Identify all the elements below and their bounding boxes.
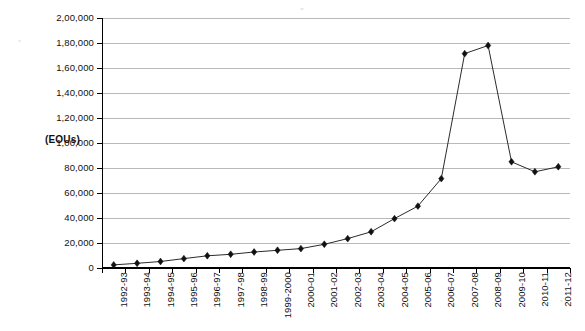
x-tick-label: 2001-02 xyxy=(328,272,339,308)
x-tick-label: 1994-95 xyxy=(165,272,176,308)
y-tick-label: 0 xyxy=(30,262,94,273)
x-tick-label: 1997-98 xyxy=(235,272,246,308)
y-tick-label: 1,40,000 xyxy=(30,87,94,98)
x-tick-mark xyxy=(102,268,103,273)
x-tick-label: 2004-05 xyxy=(399,272,410,308)
y-tick-label: 1,20,000 xyxy=(30,112,94,123)
y-tick-label: 80,000 xyxy=(30,162,94,173)
x-tick-label: 1998-99 xyxy=(258,272,269,308)
y-tick-label: 40,000 xyxy=(30,212,94,223)
y-tick-label: 20,000 xyxy=(30,237,94,248)
x-tick-label: 2007-08 xyxy=(469,272,480,308)
y-tick-label: 1,80,000 xyxy=(30,37,94,48)
x-tick-label: 1995-96 xyxy=(188,272,199,308)
x-tick-label: 1996-97 xyxy=(211,272,222,308)
y-tick-label: 2,00,000 xyxy=(30,12,94,23)
x-tick-label: 2003-04 xyxy=(375,272,386,308)
x-tick-label: 2011-12 xyxy=(562,272,573,307)
x-tick-label: 1992-93 xyxy=(118,272,129,308)
x-tick-label: 1993-94 xyxy=(141,272,152,308)
y-tick-label: 1,00,000 xyxy=(30,137,94,148)
scan-speck xyxy=(300,8,304,10)
chart-figure: (EOUs) 020,00040,00060,00080,0001,00,000… xyxy=(0,0,585,331)
x-tick-label: 2010-11 xyxy=(539,272,550,307)
x-tick-label: 2005-06 xyxy=(422,272,433,308)
scan-speck xyxy=(560,300,563,302)
y-tick-label: 60,000 xyxy=(30,187,94,198)
x-tick-label: 2008-09 xyxy=(492,272,503,308)
scan-speck xyxy=(18,40,21,42)
x-tick-label: 2009-10 xyxy=(516,272,527,308)
x-tick-label: 2002-03 xyxy=(352,272,363,308)
x-tick-label: 2000-01 xyxy=(305,272,316,308)
y-tick-label: 1,60,000 xyxy=(30,62,94,73)
x-tick-label: 2006-07 xyxy=(445,272,456,308)
x-tick-label: 1999-2000 xyxy=(282,272,293,318)
plot-area xyxy=(102,18,570,268)
